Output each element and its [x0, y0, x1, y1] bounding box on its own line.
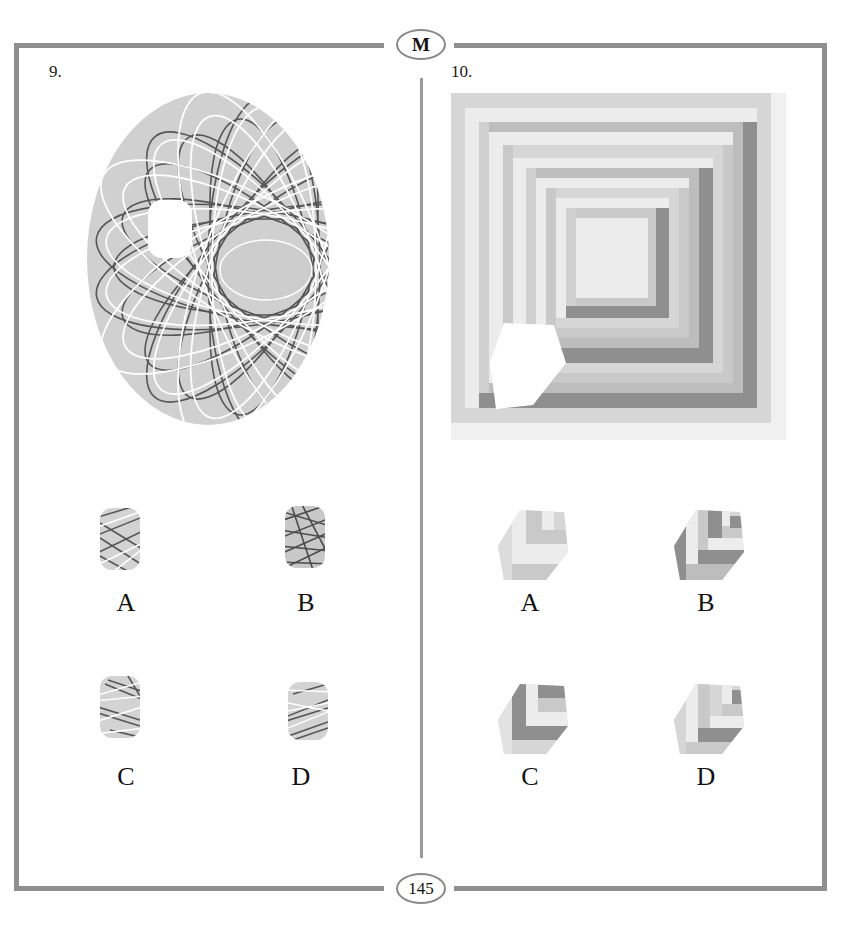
- missing-piece-cutout: [148, 200, 192, 258]
- option-d[interactable]: [288, 682, 332, 742]
- question-9-figure: [86, 92, 330, 426]
- nested-squares-image: [451, 93, 786, 440]
- option-a[interactable]: [100, 508, 144, 574]
- option-c[interactable]: [496, 682, 568, 756]
- question-number: 9.: [49, 62, 62, 82]
- option-a-image: [100, 508, 144, 574]
- option-c-image: [496, 682, 568, 756]
- option-b-label: B: [286, 588, 326, 618]
- option-c-image: [100, 676, 144, 742]
- question-10-figure: [451, 93, 786, 440]
- option-b-image: [672, 508, 744, 582]
- option-d-image: [288, 682, 332, 742]
- page-number: 145: [396, 873, 446, 904]
- option-d[interactable]: [672, 682, 744, 756]
- option-a-label: A: [106, 588, 146, 618]
- option-b-image: [285, 506, 329, 572]
- option-c-label: C: [106, 762, 146, 792]
- option-c-label: C: [510, 762, 550, 792]
- option-a-image: [496, 508, 568, 582]
- frame-right-border: [822, 43, 827, 891]
- option-b-label: B: [686, 588, 726, 618]
- spirograph-ellipse-image: [86, 92, 330, 426]
- column-divider: [420, 78, 423, 858]
- option-c[interactable]: [100, 676, 144, 742]
- question-number: 10.: [451, 62, 472, 82]
- section-badge: M: [396, 29, 446, 60]
- frame-left-border: [14, 43, 19, 891]
- option-b[interactable]: [285, 506, 329, 572]
- option-b[interactable]: [672, 508, 744, 582]
- option-d-image: [672, 682, 744, 756]
- option-d-label: D: [281, 762, 321, 792]
- option-d-label: D: [686, 762, 726, 792]
- option-a-label: A: [510, 588, 550, 618]
- option-a[interactable]: [496, 508, 568, 582]
